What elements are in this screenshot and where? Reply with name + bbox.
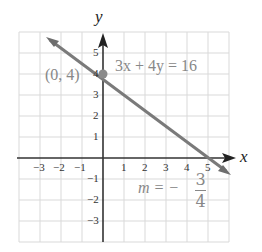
x-tick: 1 xyxy=(121,161,127,173)
slope-fraction: 3 4 xyxy=(195,170,206,211)
y-tick: 2 xyxy=(93,109,99,121)
slope-denominator: 4 xyxy=(195,192,205,211)
equation-label: 3x + 4y = 16 xyxy=(115,57,197,75)
point-label: (0, 4) xyxy=(45,66,80,84)
x-tick: 3 xyxy=(163,161,169,173)
y-tick: 4 xyxy=(93,67,99,79)
x-tick: −3 xyxy=(33,161,45,173)
coordinate-plane xyxy=(0,0,262,252)
y-tick: −3 xyxy=(87,214,99,226)
y-tick: 5 xyxy=(93,46,99,58)
x-tick: −2 xyxy=(53,161,65,173)
slope-prefix: m = − xyxy=(138,179,179,196)
slope-label: m = − xyxy=(138,179,179,197)
y-tick: −1 xyxy=(87,172,99,184)
x-tick: 4 xyxy=(184,161,190,173)
y-tick: −2 xyxy=(87,193,99,205)
y-tick: 1 xyxy=(93,130,99,142)
x-tick: −1 xyxy=(74,161,86,173)
y-tick: 3 xyxy=(93,88,99,100)
slope-numerator: 3 xyxy=(195,170,205,189)
x-axis-label: x xyxy=(240,147,248,167)
y-axis-label: y xyxy=(95,7,103,27)
x-tick: 2 xyxy=(142,161,148,173)
fraction-bar xyxy=(195,190,206,191)
y-intercept-point xyxy=(99,70,108,79)
